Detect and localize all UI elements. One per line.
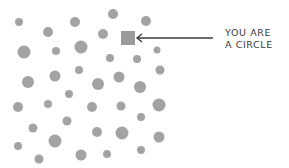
dot-field — [0, 0, 289, 168]
arrow-left-icon — [137, 34, 213, 42]
circle-shape — [114, 72, 125, 83]
circle-shape — [141, 16, 151, 26]
circle-shape — [116, 127, 129, 140]
circle-shape — [103, 150, 111, 158]
circle-shape — [75, 66, 83, 74]
circle-shape — [87, 102, 97, 112]
square-shape — [121, 31, 135, 45]
circle-shape — [154, 47, 161, 54]
circle-shape — [63, 117, 72, 126]
circle-shape — [106, 54, 114, 62]
circle-shape — [137, 113, 145, 121]
circle-shape — [35, 155, 44, 164]
circle-group — [13, 9, 166, 164]
circle-shape — [76, 150, 87, 161]
circle-shape — [49, 135, 62, 148]
circle-shape — [134, 81, 146, 93]
circle-shape — [75, 41, 88, 54]
circle-shape — [70, 17, 80, 27]
circle-shape — [43, 27, 53, 37]
callout-line-2: A CIRCLE — [225, 39, 273, 51]
circle-shape — [133, 55, 141, 63]
circle-shape — [18, 46, 31, 59]
circle-shape — [52, 47, 60, 55]
circle-shape — [98, 29, 108, 39]
circle-shape — [65, 90, 73, 98]
circle-shape — [108, 9, 118, 19]
circle-shape — [13, 102, 23, 112]
circle-shape — [29, 124, 38, 133]
circle-shape — [156, 66, 165, 75]
circle-shape — [117, 102, 126, 111]
circle-shape — [50, 71, 61, 82]
circle-shape — [44, 100, 52, 108]
callout-label: YOU ARE A CIRCLE — [225, 27, 273, 51]
circle-shape — [92, 127, 102, 137]
circle-shape — [154, 132, 165, 143]
callout-line-1: YOU ARE — [225, 27, 273, 39]
circle-shape — [14, 142, 22, 150]
circle-shape — [22, 76, 34, 88]
circle-shape — [153, 99, 166, 112]
circle-shape — [15, 18, 23, 26]
circle-shape — [137, 146, 145, 154]
illustration-canvas: YOU ARE A CIRCLE — [0, 0, 289, 168]
circle-shape — [92, 78, 104, 90]
